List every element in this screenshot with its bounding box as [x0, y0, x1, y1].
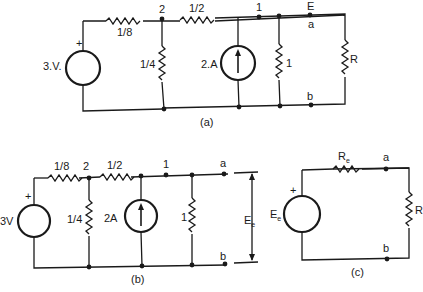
- node-E-label-a: E: [307, 0, 314, 12]
- node-1-label-b: 1: [163, 158, 169, 170]
- resistor-1-8-b: [48, 175, 82, 181]
- resistor-1-b: [189, 198, 195, 232]
- r18-label-a: 1/8: [117, 26, 132, 38]
- resistor-1-4-b: [86, 200, 92, 234]
- resistor-1-2-b: [100, 174, 134, 180]
- circuit-figure: + 3.V. 1/8 2 1/4 1/2 2.A 1 1 E a R b (a): [0, 0, 423, 292]
- r14-label-b: 1/4: [67, 213, 82, 225]
- plus-sign-a: +: [76, 37, 82, 49]
- node-1-label-a: 1: [256, 1, 262, 13]
- resistor-R-a: [342, 40, 348, 74]
- node-a-label-a: a: [308, 18, 315, 30]
- r1-label-a: 1: [286, 57, 292, 69]
- caption-a: (a): [200, 116, 213, 128]
- r1-label-b: 1: [181, 211, 187, 223]
- node-2-label-a: 2: [159, 3, 165, 15]
- circuit-b: + 3V 1/8 2 1/4 1/2 2A 1 1 a b Ee (b): [0, 157, 258, 285]
- resistor-1-2-a: [180, 17, 214, 23]
- voltage-label-a: 3.V.: [43, 60, 62, 72]
- current-label-a: 2.A: [201, 58, 218, 70]
- resistor-1-a: [276, 44, 282, 78]
- voltage-source-a: [66, 51, 100, 85]
- voltage-source-b: [18, 205, 50, 237]
- load-R-label-a: R: [350, 53, 358, 65]
- plus-sign-c: +: [290, 184, 296, 196]
- node-a-label-c: a: [383, 151, 390, 163]
- voltage-source-c: [284, 196, 320, 232]
- node-b-label-b: b: [220, 250, 226, 262]
- node-b-label-c: b: [383, 242, 389, 254]
- source-label-c: Ee: [270, 208, 281, 222]
- r12-label-a: 1/2: [189, 2, 204, 14]
- r18-label-b: 1/8: [54, 160, 69, 172]
- current-label-b: 2A: [104, 212, 118, 224]
- node-2-label-b: 2: [83, 160, 89, 172]
- resistor-1-4-a: [159, 46, 165, 80]
- equiv-voltage-label-b: Ee: [244, 214, 255, 228]
- caption-c: (c): [351, 266, 364, 278]
- plus-sign-b: +: [25, 190, 31, 202]
- series-res-label-c: Re: [338, 150, 350, 164]
- circuit-c: + Ee Re a R b (c): [270, 150, 423, 278]
- caption-b: (b): [131, 273, 144, 285]
- node-a-label-b: a: [220, 157, 227, 169]
- r12-label-b: 1/2: [107, 159, 122, 171]
- resistor-1-8-a: [106, 18, 140, 24]
- load-R-label-c: R: [415, 204, 423, 216]
- r14-label-a: 1/4: [140, 58, 155, 70]
- resistor-R-c: [406, 192, 412, 226]
- voltage-label-b: 3V: [0, 215, 14, 227]
- circuit-a: + 3.V. 1/8 2 1/4 1/2 2.A 1 1 E a R b (a): [43, 0, 358, 128]
- node-b-label-a: b: [307, 90, 313, 102]
